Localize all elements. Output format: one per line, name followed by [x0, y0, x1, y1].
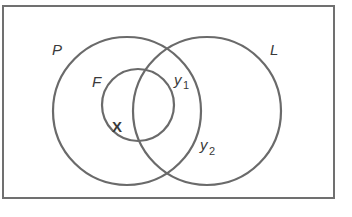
set-l-circle — [133, 37, 281, 185]
point-x-label: X — [112, 118, 122, 135]
set-l-label: L — [270, 41, 278, 58]
point-y2-label: y — [199, 136, 209, 153]
point-y1-subscript: 1 — [183, 79, 189, 91]
venn-diagram: P L F X y 1 y 2 — [0, 0, 352, 217]
point-y2-subscript: 2 — [209, 145, 215, 157]
set-f-label: F — [92, 73, 102, 90]
point-y1-label: y — [173, 71, 183, 88]
set-p-label: P — [52, 41, 62, 58]
set-p-circle — [53, 37, 201, 185]
